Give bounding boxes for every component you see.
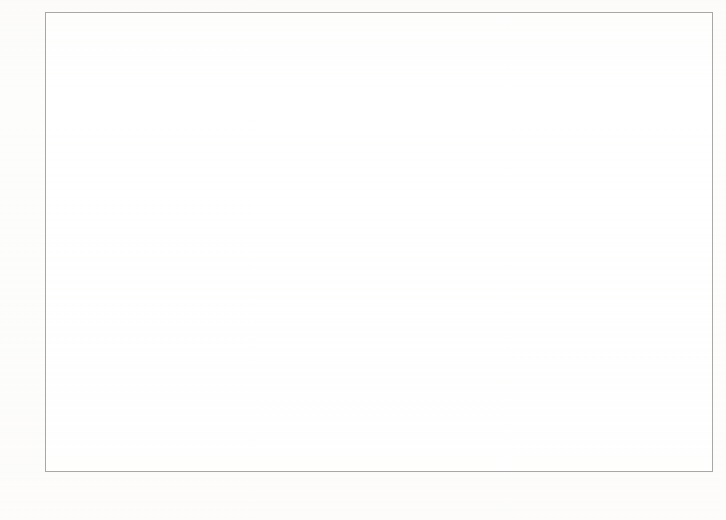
flow-series-plot: [46, 13, 713, 472]
figure-container: [0, 0, 726, 520]
plot-area: [45, 12, 713, 472]
